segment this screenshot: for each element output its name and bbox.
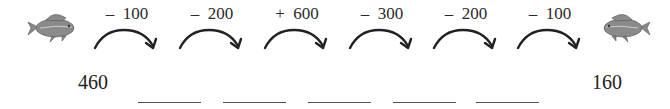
curved-arrow-icon bbox=[515, 26, 585, 52]
answer-blank[interactable] bbox=[308, 102, 371, 103]
answer-blank[interactable] bbox=[223, 102, 286, 103]
answer-blank[interactable] bbox=[138, 102, 201, 103]
operation-label: + 600 bbox=[262, 4, 332, 24]
operation-label: – 100 bbox=[515, 4, 585, 24]
operation-label: – 200 bbox=[431, 4, 501, 24]
curved-arrow-icon bbox=[92, 26, 162, 52]
curved-arrow-icon bbox=[177, 26, 247, 52]
operation-label: – 300 bbox=[347, 4, 417, 24]
curved-arrow-icon bbox=[262, 26, 332, 52]
fish-icon-left bbox=[22, 8, 84, 44]
answer-blank[interactable] bbox=[393, 102, 456, 103]
operation-label: – 100 bbox=[92, 4, 162, 24]
answer-blank[interactable] bbox=[476, 102, 539, 103]
end-value: 160 bbox=[592, 71, 622, 94]
start-value: 460 bbox=[78, 71, 108, 94]
curved-arrow-icon bbox=[347, 26, 417, 52]
curved-arrow-icon bbox=[431, 26, 501, 52]
operation-label: – 200 bbox=[177, 4, 247, 24]
fish-icon-right bbox=[594, 8, 656, 44]
